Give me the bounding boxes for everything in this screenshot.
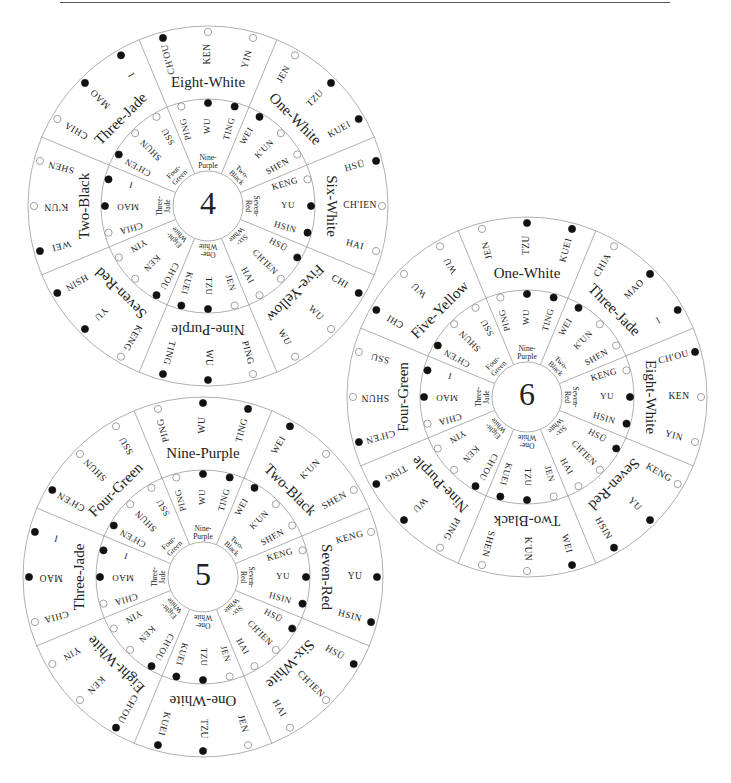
inner-star-label: One-White [193, 613, 212, 630]
hollow-dot-icon [244, 741, 251, 748]
hollow-dot-icon [596, 466, 603, 473]
period-number: 6 [519, 376, 535, 412]
mountain-word: YU [348, 571, 363, 581]
filled-dot-icon [420, 393, 427, 400]
inner-star-label: Nine-Purple [193, 524, 213, 541]
mountain-word: MAO [39, 573, 63, 583]
mountain-word: KEN [668, 391, 689, 401]
hollow-dot-icon [249, 34, 256, 41]
hollow-dot-icon [550, 493, 557, 500]
hollow-dot-icon [349, 393, 356, 400]
filled-dot-icon [115, 151, 122, 158]
hollow-dot-icon [153, 113, 160, 120]
mountain-word: K'UN [44, 202, 68, 212]
filled-dot-icon [626, 393, 633, 400]
hollow-dot-icon [173, 474, 180, 481]
filled-dot-icon [244, 405, 251, 412]
hollow-dot-icon [154, 405, 161, 412]
filled-dot-icon [81, 79, 88, 86]
inner-mountain-word: WU [521, 309, 531, 325]
filled-dot-icon [523, 290, 530, 297]
filled-dot-icon [307, 202, 314, 209]
filled-dot-icon [31, 528, 38, 535]
hollow-dot-icon [249, 370, 256, 377]
hollow-dot-icon [231, 302, 238, 309]
inner-star-label: One-White [517, 433, 536, 450]
hollow-dot-icon [289, 522, 296, 529]
hollow-dot-icon [350, 486, 357, 493]
filled-dot-icon [327, 79, 334, 86]
filled-dot-icon [355, 115, 362, 122]
filled-dot-icon [154, 741, 161, 748]
filled-dot-icon [472, 483, 479, 490]
hollow-dot-icon [623, 367, 630, 374]
star-label: Nine-Purple [166, 445, 240, 461]
inner-mountain-word: YU [276, 571, 290, 581]
hollow-dot-icon [596, 321, 603, 328]
mountain-word: TZU [521, 235, 531, 255]
hollow-dot-icon [436, 544, 443, 551]
hollow-dot-icon [436, 243, 443, 250]
mountain-word: WU [204, 350, 214, 367]
filled-dot-icon [373, 480, 380, 487]
inner-star-label: Nine-Purple [517, 344, 537, 361]
flying-star-diagram: One-WhiteJENTZUKUEIThree-JadeCHIAMAOIEig… [0, 0, 731, 783]
hollow-dot-icon [674, 480, 681, 487]
hollow-dot-icon [400, 270, 407, 277]
hollow-dot-icon [105, 229, 112, 236]
hollow-dot-icon [304, 176, 311, 183]
filled-dot-icon [299, 600, 306, 607]
filled-dot-icon [302, 573, 309, 580]
star-label: One-White [169, 693, 236, 709]
filled-dot-icon [173, 673, 180, 680]
filled-dot-icon [204, 305, 211, 312]
filled-dot-icon [105, 176, 112, 183]
filled-dot-icon [523, 496, 530, 503]
hollow-dot-icon [117, 353, 124, 360]
filled-dot-icon [355, 289, 362, 296]
hollow-dot-icon [691, 438, 698, 445]
hollow-dot-icon [355, 348, 362, 355]
hollow-dot-icon [36, 157, 43, 164]
filled-dot-icon [199, 676, 206, 683]
star-label: Seven-Red [319, 544, 335, 610]
filled-dot-icon [575, 304, 582, 311]
inner-mountain-word: YU [281, 200, 295, 210]
hollow-dot-icon [478, 561, 485, 568]
filled-dot-icon [613, 445, 620, 452]
hollow-dot-icon [372, 247, 379, 254]
star-label: Eight-White [171, 74, 245, 90]
hollow-dot-icon [424, 420, 431, 427]
inner-mountain-word: YU [600, 391, 614, 401]
hollow-dot-icon [100, 600, 107, 607]
filled-dot-icon [350, 660, 357, 667]
hollow-dot-icon [127, 501, 134, 508]
filled-dot-icon [101, 202, 108, 209]
hollow-dot-icon [299, 547, 306, 554]
filled-dot-icon [204, 99, 211, 106]
filled-dot-icon [355, 438, 362, 445]
filled-dot-icon [286, 423, 293, 430]
filled-dot-icon [294, 254, 301, 261]
filled-dot-icon [112, 724, 119, 731]
hollow-dot-icon [148, 484, 155, 491]
hollow-dot-icon [272, 646, 279, 653]
filled-dot-icon [623, 420, 630, 427]
filled-dot-icon [550, 294, 557, 301]
period-number: 5 [195, 556, 211, 592]
period-number: 4 [200, 185, 216, 221]
hollow-dot-icon [127, 646, 134, 653]
filled-dot-icon [424, 367, 431, 374]
inner-mountain-word: WU [197, 489, 207, 505]
filled-dot-icon [231, 103, 238, 110]
hollow-dot-icon [575, 483, 582, 490]
filled-dot-icon [199, 399, 206, 406]
filled-dot-icon [691, 348, 698, 355]
star-label: One-White [494, 265, 561, 281]
hollow-dot-icon [523, 567, 530, 574]
star-label: Three-Jade [71, 543, 87, 610]
star-label: Six-White [324, 175, 340, 237]
hollow-dot-icon [277, 130, 284, 137]
hollow-dot-icon [226, 673, 233, 680]
filled-dot-icon [372, 157, 379, 164]
